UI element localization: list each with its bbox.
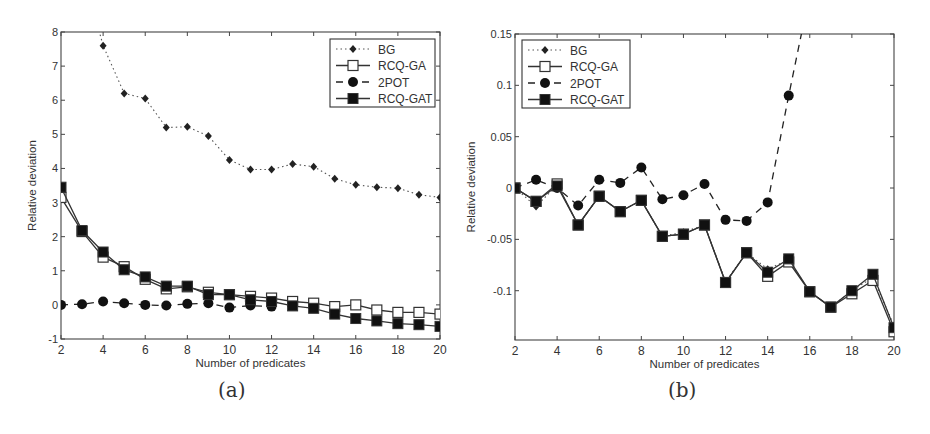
caption-b: (b)	[668, 378, 696, 402]
filled-square-marker	[56, 182, 66, 192]
filled-square-marker	[889, 323, 899, 333]
filled-square-marker	[826, 302, 836, 312]
x-tick-label: 20	[433, 343, 447, 357]
diamond-marker	[184, 123, 191, 131]
diamond-marker	[268, 165, 275, 173]
x-tick-label: 6	[596, 344, 603, 358]
filled-square-marker	[393, 319, 403, 329]
x-tick-label: 12	[265, 343, 279, 357]
filled-square-marker	[552, 181, 562, 191]
filled-square-marker	[267, 296, 277, 306]
diamond-marker	[373, 183, 380, 191]
diamond-marker	[352, 181, 359, 189]
y-tick-label: 0	[506, 182, 512, 194]
open-square-marker	[435, 309, 445, 319]
chart-panel-b: 2468101214161820Number of predicates-0.1…	[465, 0, 930, 434]
filled-square-marker	[636, 195, 646, 205]
x-axis-label: Number of predicates	[650, 358, 760, 370]
open-square-marker	[348, 61, 358, 71]
x-tick-label: 2	[58, 343, 65, 357]
legend-label: BG	[570, 44, 587, 58]
open-square-marker	[351, 300, 361, 310]
legend-item-rcq-gat: RCQ-GAT	[336, 92, 433, 106]
x-tick-label: 16	[349, 343, 363, 357]
filled-square-marker	[742, 248, 752, 258]
y-tick-label: -1	[48, 333, 58, 345]
filled-square-marker	[435, 321, 445, 331]
x-tick-label: 12	[719, 344, 733, 358]
x-tick-label: 14	[307, 343, 321, 357]
series-line	[515, 184, 894, 332]
circle-marker	[784, 91, 794, 101]
x-tick-label: 2	[512, 344, 519, 358]
y-tick-label: -0.1	[493, 285, 512, 297]
diamond-marker	[415, 191, 422, 199]
circle-marker	[573, 200, 583, 210]
legend-label: RCQ-GAT	[378, 92, 433, 106]
legend: BGRCQ-GA2POTRCQ-GAT	[522, 40, 630, 108]
filled-square-marker	[98, 247, 108, 257]
y-tick-label: 0.05	[491, 131, 512, 143]
y-axis-label: Relative deviation	[26, 140, 38, 231]
line-chart-a: 2468101214161820Number of predicates-101…	[0, 0, 465, 434]
y-tick-label: 4	[52, 162, 58, 174]
circle-marker	[678, 190, 688, 200]
legend-label: BG	[378, 43, 395, 57]
diamond-marker	[437, 193, 444, 201]
circle-marker	[119, 298, 129, 308]
diamond-marker	[121, 89, 128, 97]
circle-marker	[721, 215, 731, 225]
y-tick-label: 3	[52, 197, 58, 209]
circle-marker	[657, 194, 667, 204]
diamond-marker	[100, 42, 107, 50]
filled-square-marker	[161, 281, 171, 291]
series-rcq-gat	[510, 181, 899, 333]
circle-marker	[594, 175, 604, 185]
open-square-marker	[540, 62, 550, 72]
circle-marker	[98, 296, 108, 306]
circle-marker	[531, 175, 541, 185]
diamond-marker	[310, 163, 317, 171]
caption-a: (a)	[218, 378, 246, 402]
filled-square-marker	[246, 295, 256, 305]
legend-item-rcq-ga: RCQ-GA	[336, 59, 426, 73]
y-tick-label: 0.1	[497, 79, 512, 91]
filled-square-marker	[203, 290, 213, 300]
filled-square-marker	[140, 272, 150, 282]
circle-marker	[224, 303, 234, 313]
y-tick-label: 1	[52, 265, 58, 277]
filled-square-marker	[868, 269, 878, 279]
filled-square-marker	[805, 287, 815, 297]
diamond-marker	[247, 165, 254, 173]
series-line	[515, 186, 894, 328]
filled-square-marker	[615, 207, 625, 217]
series-2pot	[56, 296, 277, 312]
legend-label: 2POT	[378, 76, 410, 90]
circle-marker	[540, 78, 550, 88]
y-tick-label: 6	[52, 94, 58, 106]
filled-square-marker	[414, 320, 424, 330]
filled-square-marker	[540, 95, 550, 105]
series-line	[515, 185, 894, 326]
x-tick-label: 20	[887, 344, 901, 358]
legend-item-rcq-gat: RCQ-GAT	[528, 93, 625, 107]
x-tick-label: 10	[223, 343, 237, 357]
circle-marker	[742, 216, 752, 226]
filled-square-marker	[119, 265, 129, 275]
x-tick-label: 8	[184, 343, 191, 357]
x-tick-label: 10	[677, 344, 691, 358]
legend-item-rcq-ga: RCQ-GA	[528, 60, 618, 74]
filled-square-marker	[77, 226, 87, 236]
open-square-marker	[414, 307, 424, 317]
diamond-marker	[226, 156, 233, 164]
filled-square-marker	[531, 196, 541, 206]
filled-square-marker	[763, 267, 773, 277]
diamond-marker	[331, 175, 338, 183]
legend-label: RCQ-GAT	[570, 93, 625, 107]
x-tick-label: 18	[845, 344, 859, 358]
y-tick-label: -0.05	[487, 233, 512, 245]
y-tick-label: 7	[52, 60, 58, 72]
circle-marker	[182, 299, 192, 309]
series-rcq-ga	[510, 179, 899, 337]
x-tick-label: 4	[100, 343, 107, 357]
